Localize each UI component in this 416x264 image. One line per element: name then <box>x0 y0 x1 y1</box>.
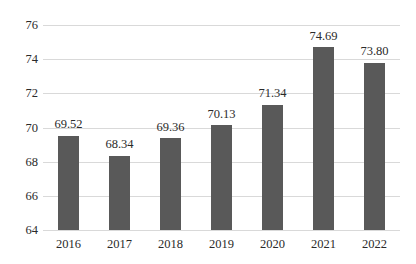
x-tick-slot: 2016 <box>43 234 94 252</box>
bar-chart: 64666870727476 69.5268.3469.3670.1371.34… <box>0 0 416 264</box>
bar[interactable] <box>109 156 130 230</box>
x-tick-slot: 2020 <box>247 234 298 252</box>
x-axis-tick-label: 2016 <box>56 237 81 251</box>
bar-slot: 74.69 <box>298 25 349 230</box>
bar[interactable] <box>58 136 79 230</box>
x-tick-slot: 2021 <box>298 234 349 252</box>
bar-slot: 71.34 <box>247 25 298 230</box>
x-axis-tick-label: 2019 <box>209 237 234 251</box>
x-tick-slot: 2022 <box>349 234 400 252</box>
y-axis-tick-label: 72 <box>4 87 38 100</box>
bar-value-label: 69.52 <box>54 118 82 131</box>
bar-slot: 69.52 <box>43 25 94 230</box>
y-axis-tick-label: 70 <box>4 121 38 134</box>
gridline <box>43 230 400 231</box>
x-tick-slot: 2019 <box>196 234 247 252</box>
bar-slot: 68.34 <box>94 25 145 230</box>
y-axis-tick-label: 74 <box>4 53 38 66</box>
bar-slot: 69.36 <box>145 25 196 230</box>
bars-layer: 69.5268.3469.3670.1371.3474.6973.80 <box>43 25 400 230</box>
x-axis-tick-label: 2017 <box>107 237 132 251</box>
bar[interactable] <box>211 125 232 230</box>
bar[interactable] <box>313 47 334 230</box>
x-axis-tick-label: 2022 <box>362 237 387 251</box>
x-axis-tick-label: 2021 <box>311 237 336 251</box>
bar-value-label: 70.13 <box>207 108 235 121</box>
bar-value-label: 69.36 <box>156 121 184 134</box>
bar-slot: 73.80 <box>349 25 400 230</box>
x-tick-slot: 2017 <box>94 234 145 252</box>
y-axis-tick-label: 64 <box>4 224 38 237</box>
bar-slot: 70.13 <box>196 25 247 230</box>
x-axis-tick-label: 2018 <box>158 237 183 251</box>
bar-value-label: 71.34 <box>258 87 286 100</box>
bar-value-label: 68.34 <box>105 138 133 151</box>
y-axis-tick-label: 66 <box>4 190 38 203</box>
bar[interactable] <box>160 138 181 230</box>
bar-value-label: 74.69 <box>309 30 337 43</box>
y-axis-tick-label: 68 <box>4 155 38 168</box>
bar[interactable] <box>262 105 283 230</box>
bar-value-label: 73.80 <box>360 45 388 58</box>
x-tick-slot: 2018 <box>145 234 196 252</box>
y-axis-tick-label: 76 <box>4 19 38 32</box>
bar[interactable] <box>364 63 385 230</box>
x-axis-labels: 2016201720182019202020212022 <box>43 234 400 252</box>
x-axis-tick-label: 2020 <box>260 237 285 251</box>
